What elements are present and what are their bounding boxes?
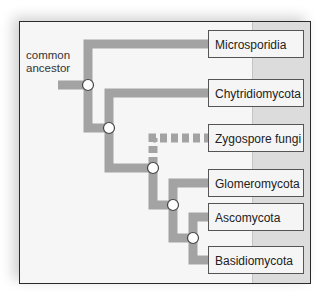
node-3 <box>148 163 159 174</box>
branch-glomeromycota <box>173 183 208 205</box>
branch-microsporidia <box>88 44 208 85</box>
node-2 <box>104 123 115 134</box>
common-ancestor-label: common ancestor <box>26 49 70 75</box>
taxon-chytridiomycota: Chytridiomycota <box>208 79 304 107</box>
node-1 <box>83 80 94 91</box>
taxon-glomeromycota: Glomeromycota <box>208 169 304 197</box>
branch-chytridiomycota <box>109 93 208 128</box>
taxon-microsporidia: Microsporidia <box>208 30 304 58</box>
common-ancestor-line-1: common <box>26 49 70 62</box>
taxon-basidiomycota: Basidiomycota <box>208 246 304 274</box>
taxon-ascomycota: Ascomycota <box>208 203 304 231</box>
branch-zygospore-fungi-dashed <box>153 138 208 164</box>
branch-node2-node3 <box>109 128 153 168</box>
node-4 <box>168 200 179 211</box>
node-5 <box>188 233 199 244</box>
taxon-zygospore-fungi: Zygospore fungi <box>208 124 304 152</box>
common-ancestor-line-2: ancestor <box>26 62 70 75</box>
